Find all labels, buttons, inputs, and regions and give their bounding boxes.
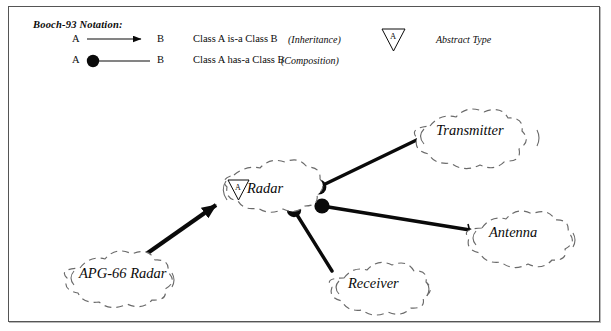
node-apg66-label: APG-66 Radar (79, 265, 166, 282)
node-radar-label: Radar (247, 180, 283, 197)
legend-row-2-kind: (Composition) (281, 55, 339, 66)
legend-row-1-description: Class A is-a Class B (193, 33, 278, 44)
node-antenna-label: Antenna (489, 224, 537, 241)
legend-row-1-kind: (Inheritance) (288, 34, 341, 45)
node-radar-abstract-letter: A (235, 183, 241, 192)
legend-row-2-description: Class A has-a Class B (193, 54, 285, 65)
edge-radar-receiver (287, 203, 332, 271)
notation-title: Booch-93 Notation: (33, 19, 123, 30)
legend-row-1-source: A (72, 33, 80, 44)
abstract-type-label: Abstract Type (436, 34, 491, 45)
legend-row-1-target: B (157, 33, 164, 44)
diagram-canvas: Booch-93 Notation: A B Class A is-a Clas… (0, 0, 611, 331)
edge-radar-transmitter (312, 135, 427, 194)
legend-composition-connector (87, 55, 150, 67)
legend-row-2-source: A (72, 54, 80, 65)
node-transmitter-label: Transmitter (436, 122, 504, 139)
edge-apg66-radar (142, 205, 216, 257)
node-receiver-label: Receiver (348, 275, 399, 292)
abstract-type-icon-letter: A (390, 31, 396, 41)
legend-row-2-target: B (157, 54, 164, 65)
edge-radar-antenna (314, 198, 471, 236)
